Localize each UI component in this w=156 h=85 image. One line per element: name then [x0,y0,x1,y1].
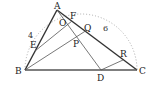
label-E: E [30,40,37,50]
label-O: O [59,18,66,28]
segment-BQ [25,30,87,70]
segment-DR [101,60,123,70]
label-R: R [120,49,127,59]
length-label-AB: 4 [28,31,33,40]
segment-AC [57,10,137,70]
label-Q: Q [84,23,91,33]
label-B: B [15,66,22,76]
label-C: C [139,66,146,76]
geometry-diagram: A B C D E F O Q P R 4 6 [0,0,156,85]
label-A: A [53,1,61,11]
length-label-AC: 6 [103,24,108,33]
label-D: D [97,73,104,83]
label-P: P [73,39,79,49]
label-F: F [70,11,76,21]
segment-EF [35,21,72,51]
